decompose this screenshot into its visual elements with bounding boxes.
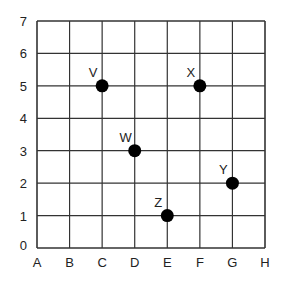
x-tick-label: G <box>227 255 237 270</box>
scatter-chart: ABCDEFGH 01234567 VXWYZ <box>0 0 286 287</box>
point-marker <box>193 79 206 92</box>
x-tick-label: A <box>33 255 42 270</box>
point-label: X <box>187 65 196 80</box>
point-marker <box>96 79 109 92</box>
x-tick-label: B <box>65 255 74 270</box>
data-point-y: Y <box>219 162 239 190</box>
point-marker <box>226 177 239 190</box>
data-point-x: X <box>187 65 207 93</box>
y-tick-label: 7 <box>20 14 27 29</box>
data-point-v: V <box>89 65 109 93</box>
y-tick-label: 5 <box>20 79 27 94</box>
x-tick-label: E <box>163 255 172 270</box>
y-tick-label: 0 <box>20 238 27 253</box>
grid-lines <box>37 21 265 248</box>
point-label: V <box>89 65 98 80</box>
y-tick-label: 4 <box>20 111 27 126</box>
data-points: VXWYZ <box>89 65 239 222</box>
y-axis-tick-labels: 01234567 <box>20 14 27 253</box>
point-label: Z <box>154 195 162 210</box>
x-tick-label: C <box>97 255 106 270</box>
y-tick-label: 3 <box>20 144 27 159</box>
x-tick-label: H <box>260 255 269 270</box>
y-tick-label: 1 <box>20 209 27 224</box>
x-tick-label: D <box>130 255 139 270</box>
point-label: W <box>120 130 133 145</box>
data-point-w: W <box>120 130 142 158</box>
x-tick-label: F <box>196 255 204 270</box>
point-label: Y <box>219 162 228 177</box>
data-point-z: Z <box>154 195 173 223</box>
y-tick-label: 2 <box>20 176 27 191</box>
y-tick-label: 6 <box>20 46 27 61</box>
point-marker <box>161 209 174 222</box>
x-axis-tick-labels: ABCDEFGH <box>33 255 270 270</box>
point-marker <box>128 144 141 157</box>
